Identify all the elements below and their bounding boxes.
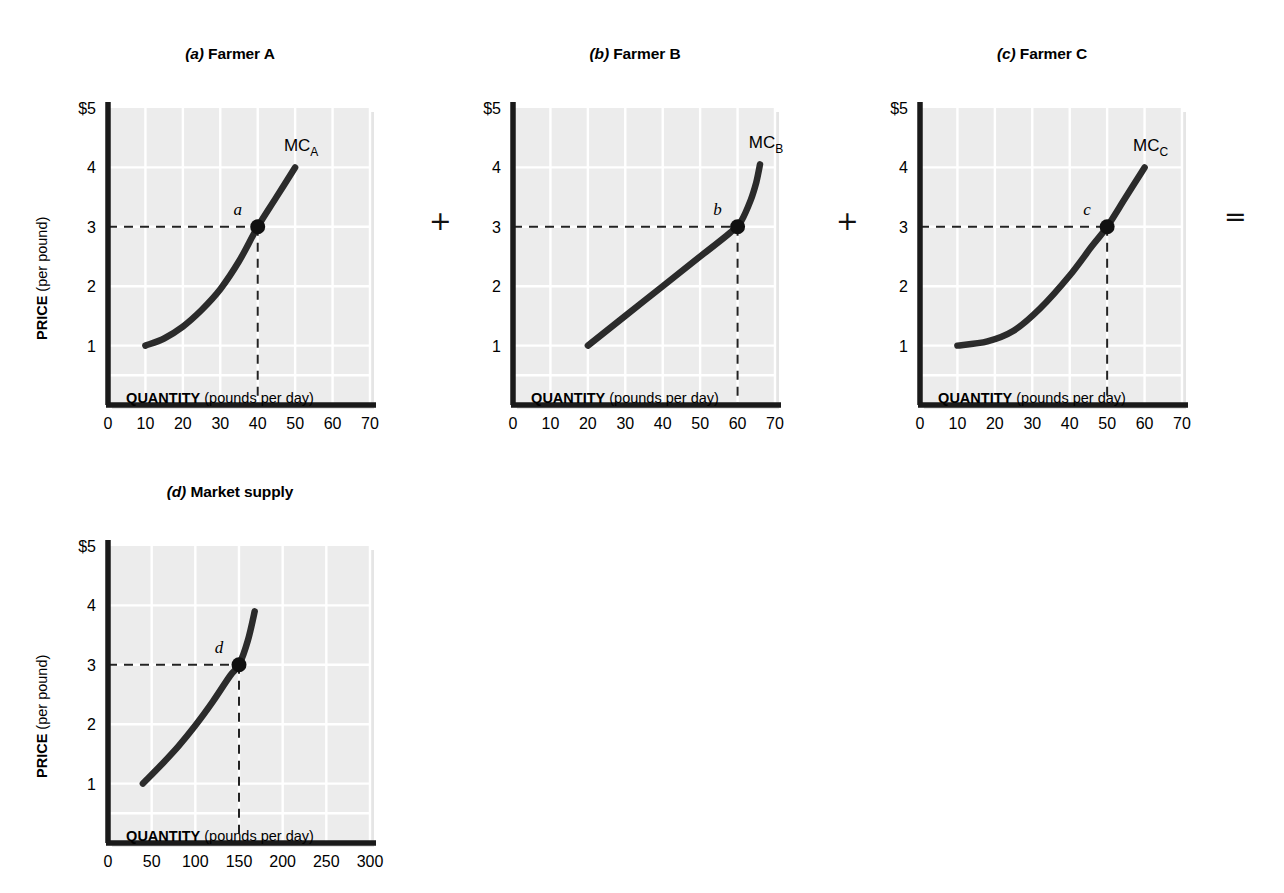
x-tick-label: 60 bbox=[729, 415, 747, 432]
y-tick-label: 2 bbox=[87, 716, 96, 733]
y-tick-label: 3 bbox=[87, 219, 96, 236]
x-tick-label: 10 bbox=[137, 415, 155, 432]
xaxis-strong: QUANTITY bbox=[126, 828, 200, 844]
xaxis-strong: QUANTITY bbox=[938, 390, 1012, 406]
connector-plus-2: + bbox=[836, 207, 859, 234]
x-tick-label: 50 bbox=[1098, 415, 1116, 432]
xaxis-rest: (pounds per day) bbox=[1012, 390, 1126, 406]
x-tick-label: 30 bbox=[616, 415, 634, 432]
y-tick-label: 3 bbox=[492, 219, 501, 236]
panel-a-xaxis-title: QUANTITY (pounds per day) bbox=[70, 390, 370, 406]
y-tick-label: $5 bbox=[78, 538, 96, 555]
x-tick-label: 0 bbox=[104, 853, 113, 870]
x-tick-label: 70 bbox=[1173, 415, 1191, 432]
x-tick-label: 200 bbox=[269, 853, 296, 870]
x-tick-label: 40 bbox=[654, 415, 672, 432]
panel-c-plot: cMCC1234$5010203040506070 bbox=[862, 60, 1202, 410]
x-tick-label: 0 bbox=[916, 415, 925, 432]
x-tick-label: 20 bbox=[986, 415, 1004, 432]
cropped-caption-above bbox=[0, 0, 1284, 14]
equilibrium-point-label: b bbox=[713, 200, 722, 219]
x-tick-label: 30 bbox=[1023, 415, 1041, 432]
x-tick-label: 150 bbox=[226, 853, 253, 870]
panel-b-xaxis-title: QUANTITY (pounds per day) bbox=[475, 390, 775, 406]
connector-equals: = bbox=[1224, 203, 1247, 230]
equilibrium-point-label: a bbox=[233, 200, 242, 219]
xaxis-rest: (pounds per day) bbox=[605, 390, 719, 406]
yaxis-rest: (per pound) bbox=[34, 655, 50, 734]
panel-a-plot: aMCA1234$5010203040506070 bbox=[50, 60, 390, 410]
equilibrium-point-marker bbox=[1100, 219, 1115, 234]
x-tick-label: 10 bbox=[542, 415, 560, 432]
y-tick-label: 2 bbox=[899, 278, 908, 295]
x-tick-label: 100 bbox=[182, 853, 209, 870]
x-tick-label: 20 bbox=[579, 415, 597, 432]
panel-d-yaxis-title: PRICE (per pound) bbox=[34, 655, 50, 778]
x-tick-label: 250 bbox=[313, 853, 340, 870]
plot-background bbox=[513, 108, 775, 405]
x-tick-label: 20 bbox=[174, 415, 192, 432]
x-tick-label: 40 bbox=[1061, 415, 1079, 432]
yaxis-strong: PRICE bbox=[34, 296, 50, 340]
y-tick-label: 3 bbox=[87, 657, 96, 674]
equilibrium-point-label: c bbox=[1083, 200, 1091, 219]
y-tick-label: 1 bbox=[899, 338, 908, 355]
y-tick-label: 1 bbox=[87, 338, 96, 355]
y-tick-label: 1 bbox=[492, 338, 501, 355]
y-tick-label: 4 bbox=[87, 159, 96, 176]
x-tick-label: 60 bbox=[1136, 415, 1154, 432]
xaxis-rest: (pounds per day) bbox=[200, 828, 314, 844]
y-tick-label: 2 bbox=[492, 278, 501, 295]
x-tick-label: 50 bbox=[143, 853, 161, 870]
equilibrium-point-marker bbox=[250, 219, 265, 234]
x-tick-label: 50 bbox=[691, 415, 709, 432]
y-tick-label: 3 bbox=[899, 219, 908, 236]
x-tick-label: 0 bbox=[104, 415, 113, 432]
panel-d-xaxis-title: QUANTITY (pounds per day) bbox=[70, 828, 370, 844]
y-tick-label: $5 bbox=[483, 100, 501, 117]
xaxis-strong: QUANTITY bbox=[126, 390, 200, 406]
y-tick-label: 1 bbox=[87, 776, 96, 793]
panel-d-plot: d1234$5050100150200250300 bbox=[50, 498, 390, 848]
x-tick-label: 40 bbox=[249, 415, 267, 432]
y-tick-label: 2 bbox=[87, 278, 96, 295]
x-tick-label: 60 bbox=[324, 415, 342, 432]
x-tick-label: 50 bbox=[286, 415, 304, 432]
y-tick-label: 4 bbox=[492, 159, 501, 176]
x-tick-label: 0 bbox=[509, 415, 518, 432]
panel-b-plot: bMCB1234$5010203040506070 bbox=[455, 60, 795, 410]
x-tick-label: 30 bbox=[211, 415, 229, 432]
panel-a-yaxis-title: PRICE (per pound) bbox=[34, 217, 50, 340]
y-tick-label: $5 bbox=[78, 100, 96, 117]
equilibrium-point-marker bbox=[730, 219, 745, 234]
xaxis-rest: (pounds per day) bbox=[200, 390, 314, 406]
x-tick-label: 300 bbox=[357, 853, 384, 870]
equilibrium-point-marker bbox=[232, 657, 247, 672]
yaxis-rest: (per pound) bbox=[34, 217, 50, 296]
supply-curves-figure: (a) Farmer A aMCA1234$5010203040506070 Q… bbox=[0, 0, 1284, 893]
y-tick-label: 4 bbox=[899, 159, 908, 176]
connector-plus-1: + bbox=[429, 207, 452, 234]
x-tick-label: 70 bbox=[361, 415, 379, 432]
xaxis-strong: QUANTITY bbox=[531, 390, 605, 406]
y-tick-label: 4 bbox=[87, 597, 96, 614]
y-tick-label: $5 bbox=[890, 100, 908, 117]
x-tick-label: 10 bbox=[949, 415, 967, 432]
x-tick-label: 70 bbox=[766, 415, 784, 432]
equilibrium-point-label: d bbox=[215, 638, 224, 657]
yaxis-strong: PRICE bbox=[34, 734, 50, 778]
panel-c-xaxis-title: QUANTITY (pounds per day) bbox=[882, 390, 1182, 406]
